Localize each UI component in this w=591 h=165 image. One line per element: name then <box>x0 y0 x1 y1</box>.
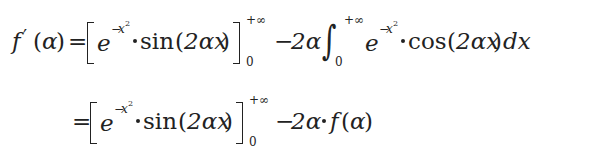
multiply-dot <box>133 39 137 43</box>
left-bracket <box>87 22 94 64</box>
close-paren: ) <box>364 110 373 133</box>
lower-limit: 0 <box>246 56 254 68</box>
multiply-dot <box>136 119 140 123</box>
exp-power-2: 2 <box>393 20 398 28</box>
multiply-dot <box>401 39 405 43</box>
sin-function: sin <box>143 110 177 133</box>
integral-lower-limit: 0 <box>335 56 343 68</box>
upper-limit: +∞ <box>249 94 269 106</box>
right-bracket <box>233 22 240 64</box>
coefficient-2alpha: 2α <box>291 30 321 53</box>
exp-base-e: e <box>365 32 379 55</box>
lower-limit: 0 <box>249 136 257 148</box>
exp-power-2: 2 <box>125 20 130 28</box>
left-bracket <box>90 102 97 144</box>
close-paren: ) <box>224 110 233 133</box>
open-paren: ( <box>33 30 42 53</box>
exp-power-2: 2 <box>128 100 133 108</box>
lhs-function: f <box>12 30 21 53</box>
close-paren: ) <box>493 30 502 53</box>
close-paren: ) <box>221 30 230 53</box>
exp-variable-x: x <box>386 23 393 35</box>
sin-function: sin <box>140 30 174 53</box>
cos-function: cos <box>408 30 447 53</box>
open-paren: ( <box>447 30 456 53</box>
upper-limit: +∞ <box>246 14 266 26</box>
equals-sign: = <box>68 30 87 53</box>
coefficient-2alpha: 2α <box>291 110 321 133</box>
prime-mark: ′ <box>23 28 27 46</box>
right-bracket <box>236 102 243 144</box>
integral-upper-limit: +∞ <box>344 14 364 26</box>
exp-variable-x: x <box>121 103 128 115</box>
exp-base-e: e <box>100 112 114 135</box>
open-paren: ( <box>341 110 350 133</box>
close-paren: ) <box>56 30 65 53</box>
multiply-dot <box>322 119 326 123</box>
equals-sign: = <box>72 110 91 133</box>
open-paren: ( <box>175 30 184 53</box>
exp-variable-x: x <box>118 23 125 35</box>
integral-sign: ∫ <box>322 20 337 60</box>
open-paren: ( <box>178 110 187 133</box>
differential-dx: dx <box>503 30 531 53</box>
rhs-function: f <box>330 110 339 133</box>
exp-base-e: e <box>97 32 111 55</box>
